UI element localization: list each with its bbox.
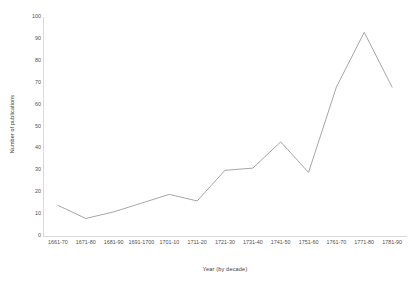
y-axis-tick-0: 0	[38, 233, 41, 238]
y-axis-tick-20: 20	[35, 189, 41, 194]
x-axis-tick-1761-70: 1761-70	[326, 240, 346, 245]
x-axis-tick-1701-10: 1701-10	[159, 240, 179, 245]
x-axis-tick-1681-90: 1681-90	[104, 240, 124, 245]
y-axis-tick-30: 30	[35, 168, 41, 173]
x-axis-tick-1671-80: 1671-80	[76, 240, 96, 245]
x-axis-tick-1751-60: 1751-60	[299, 240, 319, 245]
y-axis-tick-labels: 0102030405060708090100	[19, 0, 41, 248]
x-axis-tick-1661-70: 1661-70	[48, 240, 68, 245]
x-axis-tick-1781-90: 1781-90	[382, 240, 402, 245]
x-axis-tick-1731-40: 1731-40	[243, 240, 263, 245]
series-canvas	[44, 17, 406, 236]
y-axis-tick-10: 10	[35, 211, 41, 216]
x-axis-tick-1691-1700: 1691-1700	[129, 240, 155, 245]
line-chart: Number of publications 01020304050607080…	[0, 0, 413, 291]
x-axis-tick-labels: 1661-701671-801681-901691-17001701-10171…	[44, 240, 406, 254]
y-axis-tick-60: 60	[35, 102, 41, 107]
y-axis-title-text: Number of publications	[9, 95, 15, 153]
x-axis-title: Year (by decade)	[44, 266, 406, 272]
series-line-publications	[58, 32, 392, 218]
y-axis-tick-50: 50	[35, 124, 41, 129]
y-axis-tick-90: 90	[35, 36, 41, 41]
y-axis-title: Number of publications	[5, 0, 19, 248]
x-axis-tick-1771-80: 1771-80	[354, 240, 374, 245]
y-axis-tick-100: 100	[32, 14, 41, 19]
x-axis-tick-1721-30: 1721-30	[215, 240, 235, 245]
y-axis-tick-80: 80	[35, 58, 41, 63]
y-axis-tick-70: 70	[35, 80, 41, 85]
plot-area	[44, 17, 406, 236]
x-axis-line	[43, 236, 407, 237]
x-axis-tick-1741-50: 1741-50	[271, 240, 291, 245]
y-axis-tick-40: 40	[35, 146, 41, 151]
x-axis-tick-1711-20: 1711-20	[187, 240, 206, 245]
